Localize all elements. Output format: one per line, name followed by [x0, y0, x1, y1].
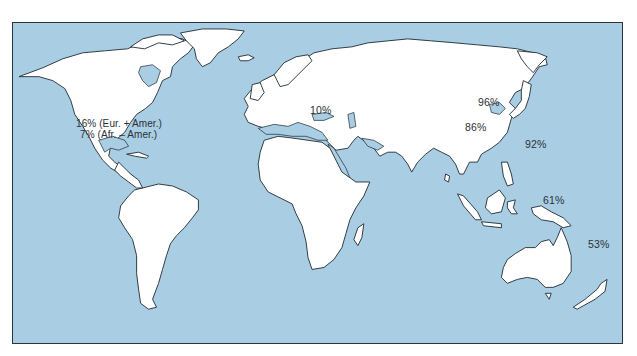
label-china: 86% [465, 122, 486, 133]
world-map-frame: 16% (Eur. + Amer.) 7% (Afr. – Amer.) 10%… [12, 22, 623, 344]
label-north-america-1: 16% (Eur. + Amer.) [76, 118, 162, 129]
label-northeast-asia: 96% [478, 97, 499, 108]
label-europe: 10% [310, 105, 331, 116]
label-japan: 92% [525, 139, 546, 150]
world-map [13, 23, 622, 343]
land-sri-lanka [445, 174, 450, 182]
label-oceania: 53% [588, 239, 609, 250]
label-north-america-2: 7% (Afr. – Amer.) [80, 129, 157, 140]
label-new-guinea: 61% [543, 195, 564, 206]
